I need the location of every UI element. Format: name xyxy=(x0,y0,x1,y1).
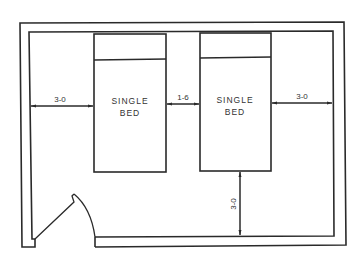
dimension-bottom: 3-0 xyxy=(229,172,240,235)
bed-left: SINGLE BED xyxy=(94,34,166,172)
bed-right: SINGLE BED xyxy=(200,33,271,171)
bed-right-pillow-divider xyxy=(200,57,271,58)
bed-left-label-line1: SINGLE xyxy=(111,96,148,106)
outer-wall xyxy=(20,22,346,247)
dimension-right-label: 3-0 xyxy=(296,92,308,101)
door xyxy=(35,194,95,239)
dimension-bottom-label: 3-0 xyxy=(229,198,238,210)
door-swing-arc xyxy=(74,194,95,237)
floor-plan: SINGLE BED SINGLE BED 3-0 1-6 3-0 3-0 xyxy=(0,0,362,267)
dimension-between-beds-label: 1-6 xyxy=(177,93,189,102)
dimension-right: 3-0 xyxy=(272,92,332,103)
bed-right-label-line2: BED xyxy=(225,107,245,117)
inner-wall xyxy=(29,31,334,239)
dimension-left-label: 3-0 xyxy=(54,95,66,104)
dimension-left: 3-0 xyxy=(31,95,93,106)
bed-left-label-line2: BED xyxy=(120,108,140,118)
door-leaf xyxy=(35,194,74,239)
bed-right-label-line1: SINGLE xyxy=(216,95,253,105)
dimension-between-beds: 1-6 xyxy=(167,93,199,104)
bed-left-pillow-divider xyxy=(94,59,166,60)
